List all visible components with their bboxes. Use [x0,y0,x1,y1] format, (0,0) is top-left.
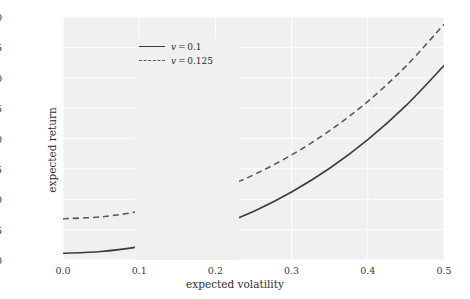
legend-swatch-dashed-icon [139,60,165,61]
y-tick-label-8: 0.300 [0,12,2,23]
chart-figure: expected return v = 0.1 v = 0.125 0.1000… [0,0,470,299]
x-tick-label-2: 0.2 [208,265,223,276]
legend-value-1: 0.125 [187,56,213,66]
x-axis-label: expected volatility [0,278,470,290]
legend-item-series-0[interactable]: v = 0.1 [139,41,235,52]
y-tick-label-2: 0.150 [0,194,2,205]
legend-value-0: 0.1 [187,42,201,52]
series-line-0 [63,66,444,254]
x-tick-label-4: 0.4 [360,265,375,276]
legend-label-series-1: v = 0.125 [171,56,213,66]
legend: v = 0.1 v = 0.125 [135,39,239,260]
legend-swatch-solid-icon [139,46,165,48]
legend-item-series-1[interactable]: v = 0.125 [139,55,235,66]
y-tick-label-6: 0.250 [0,72,2,83]
y-tick-label-1: 0.125 [0,224,2,235]
x-tick-label-1: 0.1 [132,265,147,276]
legend-var-0: v [171,42,176,52]
legend-label-series-0: v = 0.1 [171,42,202,52]
series-line-1 [63,24,444,218]
y-tick-label-0: 0.100 [0,255,2,266]
y-tick-label-7: 0.275 [0,42,2,53]
y-tick-label-5: 0.225 [0,103,2,114]
y-tick-label-3: 0.175 [0,163,2,174]
y-axis-label: expected return [46,107,58,192]
plot-area: v = 0.1 v = 0.125 [63,17,444,260]
data-lines [63,17,444,260]
x-tick-label-3: 0.3 [284,265,299,276]
y-tick-label-4: 0.200 [0,133,2,144]
x-tick-label-0: 0.0 [55,265,70,276]
legend-var-1: v [171,56,176,66]
x-tick-label-5: 0.5 [436,265,451,276]
